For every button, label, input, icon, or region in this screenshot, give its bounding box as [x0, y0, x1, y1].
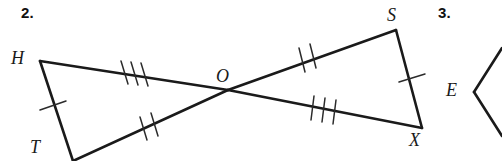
segment-O-X — [228, 90, 422, 128]
tick-marks-segment-O-S — [299, 44, 316, 72]
ray-E-lower — [474, 92, 502, 136]
segment-H-T — [40, 61, 73, 161]
vertex-label-x: X — [409, 130, 420, 151]
vertex-label-s: S — [387, 5, 396, 26]
geometry-figure-page: 2. 3. H T O S X E — [0, 0, 502, 161]
segment-H-O — [40, 61, 228, 90]
ray-E-upper — [474, 48, 502, 92]
geometry-diagram — [0, 0, 502, 161]
tick-marks-segment-S-X — [399, 74, 425, 82]
segment-T-O — [73, 90, 228, 161]
vertex-label-h: H — [11, 48, 24, 69]
segment-O-S — [228, 30, 396, 90]
problem-number-2: 2. — [21, 4, 34, 21]
vertex-label-e: E — [446, 80, 457, 101]
vertex-label-t: T — [30, 137, 40, 158]
vertex-label-o: O — [216, 66, 229, 87]
tick-marks-segment-H-O — [121, 61, 148, 86]
partial-triangle-E — [474, 48, 502, 136]
problem-number-3: 3. — [438, 4, 451, 21]
